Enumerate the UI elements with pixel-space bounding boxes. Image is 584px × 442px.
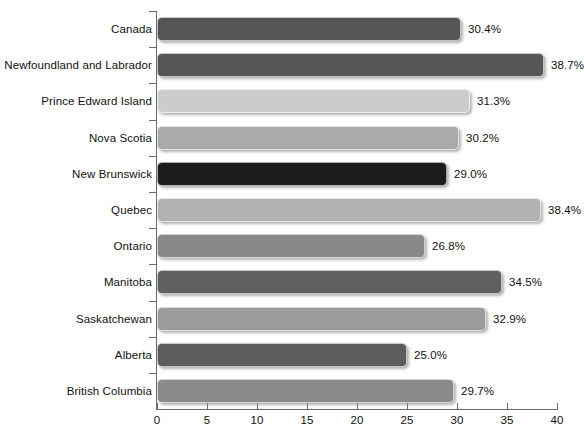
category-tick-mark xyxy=(149,228,157,229)
bar-value-label: 31.3% xyxy=(477,95,510,108)
bar[interactable] xyxy=(157,234,425,258)
category-tick-mark xyxy=(149,337,157,338)
bar-value-label: 38.4% xyxy=(548,204,581,217)
category-label: Nova Scotia xyxy=(89,131,152,144)
bar-row: New Brunswick29.0% xyxy=(0,156,584,192)
bar-value-label: 30.4% xyxy=(468,23,501,36)
category-label: New Brunswick xyxy=(72,167,152,180)
bar-row: Prince Edward Island31.3% xyxy=(0,83,584,119)
category-tick-mark xyxy=(149,47,157,48)
value-tick-label: 5 xyxy=(187,413,227,427)
category-label: Alberta xyxy=(115,348,152,361)
category-tick-mark xyxy=(149,83,157,84)
bar-value-label: 25.0% xyxy=(414,348,447,361)
value-tick-mark xyxy=(257,403,258,410)
category-tick-mark xyxy=(149,120,157,121)
bar-value-label: 38.7% xyxy=(551,59,584,72)
value-tick-label: 15 xyxy=(287,413,327,427)
bar-row: Nova Scotia30.2% xyxy=(0,120,584,156)
bar-value-label: 29.7% xyxy=(461,385,494,398)
bar[interactable] xyxy=(157,379,454,403)
bar[interactable] xyxy=(157,126,459,150)
value-tick-mark xyxy=(207,403,208,410)
value-tick-label: 0 xyxy=(137,413,177,427)
category-tick-mark xyxy=(149,156,157,157)
category-label: Saskatchewan xyxy=(76,312,152,325)
category-tick-mark xyxy=(149,11,157,12)
bar-value-label: 34.5% xyxy=(509,276,542,289)
value-tick-mark xyxy=(307,403,308,410)
value-tick-label: 20 xyxy=(337,413,377,427)
bar-row: Canada30.4% xyxy=(0,11,584,47)
plot-area: Canada30.4%Newfoundland and Labrador38.7… xyxy=(0,0,584,442)
bar-row: Saskatchewan32.9% xyxy=(0,301,584,337)
category-tick-mark xyxy=(149,373,157,374)
bar[interactable] xyxy=(157,343,407,367)
value-tick-mark xyxy=(157,403,158,410)
bar[interactable] xyxy=(157,307,486,331)
value-tick-mark xyxy=(357,403,358,410)
category-label: Canada xyxy=(111,23,152,36)
bar[interactable] xyxy=(157,198,541,222)
value-tick-label: 40 xyxy=(537,413,577,427)
bar-row: Quebec38.4% xyxy=(0,192,584,228)
category-label: Prince Edward Island xyxy=(41,95,152,108)
bar-value-label: 29.0% xyxy=(454,167,487,180)
value-tick-label: 10 xyxy=(237,413,277,427)
category-tick-mark xyxy=(149,264,157,265)
category-tick-mark xyxy=(149,192,157,193)
bar[interactable] xyxy=(157,53,544,77)
bar-row: Alberta25.0% xyxy=(0,337,584,373)
category-label: Manitoba xyxy=(104,276,152,289)
bar-row: Newfoundland and Labrador38.7% xyxy=(0,47,584,83)
category-label: Quebec xyxy=(111,204,152,217)
bar-row: Manitoba34.5% xyxy=(0,264,584,300)
value-tick-mark xyxy=(407,403,408,410)
value-tick-mark xyxy=(557,403,558,410)
value-tick-mark xyxy=(507,403,508,410)
value-tick-mark xyxy=(457,403,458,410)
category-label: British Columbia xyxy=(67,385,152,398)
bar[interactable] xyxy=(157,17,461,41)
category-label: Newfoundland and Labrador xyxy=(4,59,152,72)
bar-row: Ontario26.8% xyxy=(0,228,584,264)
category-tick-mark xyxy=(149,301,157,302)
bar-chart: Canada30.4%Newfoundland and Labrador38.7… xyxy=(0,0,584,442)
bar-row: British Columbia29.7% xyxy=(0,373,584,409)
bar-value-label: 32.9% xyxy=(493,312,526,325)
bar-value-label: 30.2% xyxy=(466,131,499,144)
value-tick-label: 30 xyxy=(437,413,477,427)
category-label: Ontario xyxy=(114,240,152,253)
bar-value-label: 26.8% xyxy=(432,240,465,253)
value-tick-label: 35 xyxy=(487,413,527,427)
value-tick-label: 25 xyxy=(387,413,427,427)
bar[interactable] xyxy=(157,89,470,113)
bar[interactable] xyxy=(157,270,502,294)
bar[interactable] xyxy=(157,162,447,186)
